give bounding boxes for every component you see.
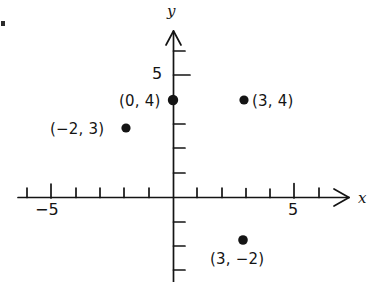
x-tick-label-minus-5: −5	[35, 200, 59, 219]
y-tick-label-5: 5	[152, 64, 162, 83]
point-label-3-neg2: (3, −2)	[210, 250, 264, 268]
point-label-3-4: (3, 4)	[252, 92, 294, 110]
point-label-neg2-3: (−2, 3)	[50, 120, 104, 138]
coordinate-plane-figure: y x −5 5 5 (0, 4) (3, 4) (−2, 3) (3, −2)	[0, 0, 371, 282]
point-neg2-3	[121, 123, 130, 132]
point-3-4	[239, 95, 248, 104]
point-label-0-4: (0, 4)	[119, 92, 161, 110]
point-0-4	[168, 95, 178, 105]
x-tick-label-5: 5	[288, 200, 298, 219]
y-axis-ticks	[174, 51, 191, 270]
point-3-neg2	[238, 235, 248, 245]
y-axis-label: y	[167, 2, 175, 20]
x-axis-label: x	[358, 189, 366, 207]
axes-and-points-drawing	[0, 0, 371, 282]
